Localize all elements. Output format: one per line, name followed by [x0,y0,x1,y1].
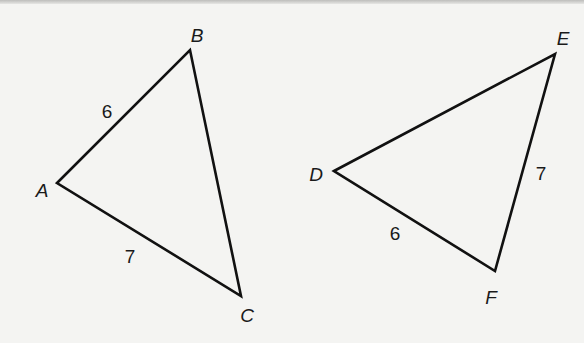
side-length-ac: 7 [125,246,136,267]
triangle-def: D E F 7 6 [309,28,570,308]
side-length-ab: 6 [102,101,113,122]
side-length-df: 6 [390,223,401,244]
triangle-abc-outline [57,50,241,296]
vertex-label-d: D [309,164,323,185]
vertex-label-a: A [35,180,49,201]
triangle-def-outline [334,54,555,271]
vertex-label-c: C [240,305,254,326]
side-length-ef: 7 [536,163,547,184]
vertex-label-f: F [485,287,498,308]
vertex-label-b: B [191,25,204,46]
triangle-abc: A B C 6 7 [35,25,254,326]
triangles-diagram: A B C 6 7 D E F 7 6 [0,0,584,343]
vertex-label-e: E [557,28,570,49]
